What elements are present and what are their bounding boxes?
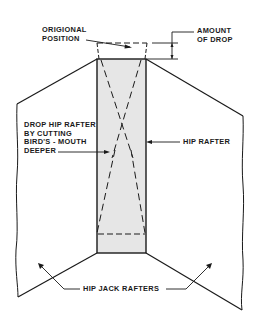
left-roof-outline (17, 59, 97, 104)
label-drop-hip-rafter: DROP HIP RAFTER BY CUTTING BIRD'S - MOUT… (24, 121, 96, 155)
hip-jack-leader-left (41, 266, 80, 289)
right-roof-outline (146, 59, 243, 116)
label-original-position: ORIGIONAL POSITION (42, 26, 87, 43)
drop-arrow-down-icon (171, 55, 174, 59)
left-break-line (16, 104, 18, 297)
label-hip-rafter: HIP RAFTER (183, 138, 230, 147)
hip-rafter-body (97, 59, 146, 253)
right-break-line (241, 116, 243, 310)
original-position-arrow-icon (125, 45, 133, 49)
label-line: POSITION (42, 35, 87, 44)
original-position-right (145, 43, 147, 59)
original-position-leader (86, 40, 130, 47)
label-hip-jack-rafters: HIP JACK RAFTERS (83, 285, 159, 294)
label-amount-of-drop: AMOUNT OF DROP (197, 27, 233, 44)
drop-arrow-up-icon (171, 43, 174, 47)
hip-rafter-diagram (0, 0, 266, 314)
hip-rafter-arrow-icon (146, 140, 152, 144)
original-position-left (97, 43, 99, 59)
label-line: OF DROP (197, 36, 233, 45)
label-line: DEEPER (24, 147, 96, 156)
